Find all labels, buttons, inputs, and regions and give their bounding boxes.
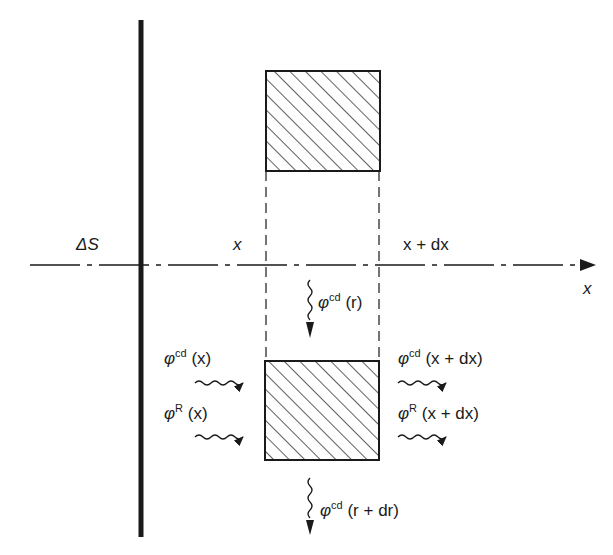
- wavy-arrow-cd-out-icon: [398, 381, 446, 385]
- wavy-arrow-r-in-icon: [195, 435, 243, 439]
- flux-r-x-label: φR (x): [164, 403, 208, 422]
- wavy-arrow-cd-rdr-head-icon: [306, 520, 314, 535]
- upper-element: [266, 71, 380, 171]
- wavy-arrow-cd-rdr-icon: [308, 478, 312, 518]
- wavy-arrow-cd-r-head-icon: [306, 322, 314, 338]
- lower-element: [265, 361, 379, 460]
- wavy-arrow-cd-r-icon: [308, 280, 312, 320]
- diagram-canvas: [0, 0, 613, 555]
- axis-x-label: x: [583, 280, 592, 297]
- position-x-dx-label: x + dx: [403, 236, 449, 253]
- flux-cd-x-label: φcd (x): [164, 348, 211, 367]
- flux-r-x-dx-label: φR (x + dx): [398, 403, 479, 422]
- flux-cd-r-label: φcd (r): [318, 292, 362, 311]
- wavy-arrow-cd-in-icon: [195, 381, 243, 385]
- flux-cd-r-dr-label: φcd (r + dr): [320, 500, 399, 519]
- flux-cd-x-dx-label: φcd (x + dx): [398, 348, 483, 367]
- wavy-arrow-r-out-icon: [398, 435, 446, 439]
- wall-label: ΔS: [76, 236, 99, 253]
- x-axis-arrow-icon: [580, 259, 596, 271]
- position-x-label: x: [233, 236, 242, 253]
